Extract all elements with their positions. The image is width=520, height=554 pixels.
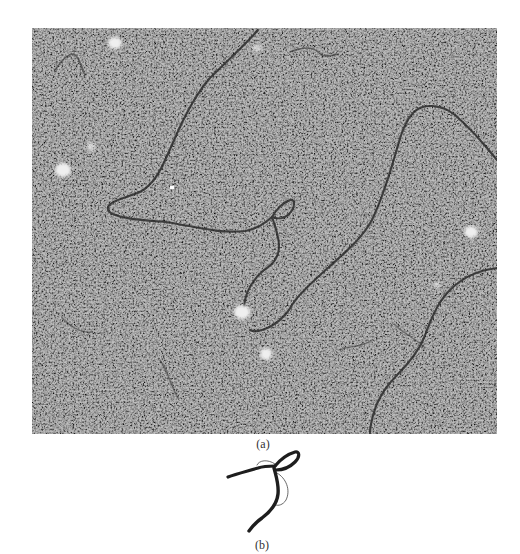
particle (433, 282, 441, 288)
panel-b-label: (b) (242, 538, 282, 552)
particle (260, 348, 272, 360)
panel-a-label: (a) (243, 437, 283, 451)
particle (464, 226, 478, 238)
figure: (a) (b) (0, 0, 520, 554)
schematic-strand-left (228, 466, 275, 477)
particle (252, 44, 262, 52)
schematic-strand-lower (249, 468, 278, 531)
schematic-thin-arc-top (257, 461, 275, 465)
particle (55, 163, 71, 177)
particle (108, 37, 122, 49)
schematic-drawing-panel-b (220, 450, 310, 540)
schematic-strand-loop (275, 452, 299, 470)
particle (87, 143, 95, 151)
electron-micrograph-panel-a (32, 28, 497, 434)
particle (234, 305, 250, 319)
tiny-speck (170, 186, 174, 189)
